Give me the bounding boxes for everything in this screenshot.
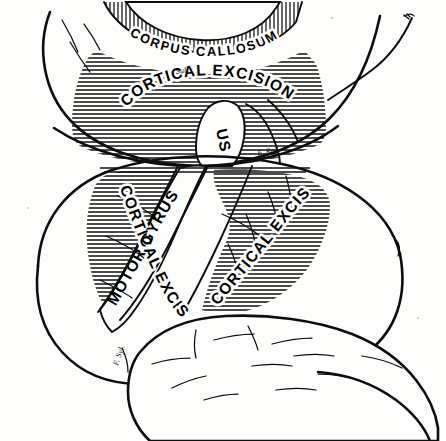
- brain-excision-figure: CORPUS CALLOSUM: [0, 0, 446, 441]
- anatomical-illustration: CORPUS CALLOSUM: [0, 0, 446, 441]
